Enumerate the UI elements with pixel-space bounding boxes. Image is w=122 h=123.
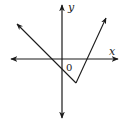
x-axis-label: x [109, 45, 116, 58]
graph-left-branch [17, 24, 76, 83]
y-axis-label: y [67, 1, 75, 14]
function-graph-diagram: y x 0 [0, 0, 122, 123]
graph-right-branch [76, 18, 106, 83]
origin-label: 0 [66, 62, 72, 73]
